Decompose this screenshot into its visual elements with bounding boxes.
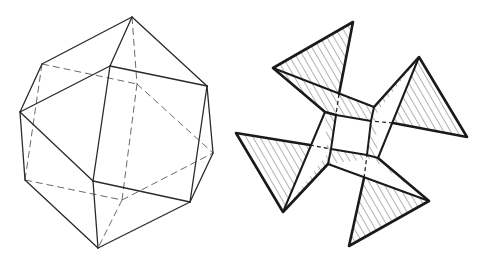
pinwheel-triangles <box>236 22 467 246</box>
pinwheel-strips <box>273 57 429 212</box>
pinwheel-outlines <box>236 22 467 246</box>
polyhedron-figure <box>20 17 213 248</box>
diagram-canvas <box>0 0 482 265</box>
center-square <box>331 115 371 155</box>
pinwheel-figure <box>236 22 467 246</box>
visible-edges <box>20 17 213 248</box>
hidden-edges <box>25 17 213 248</box>
